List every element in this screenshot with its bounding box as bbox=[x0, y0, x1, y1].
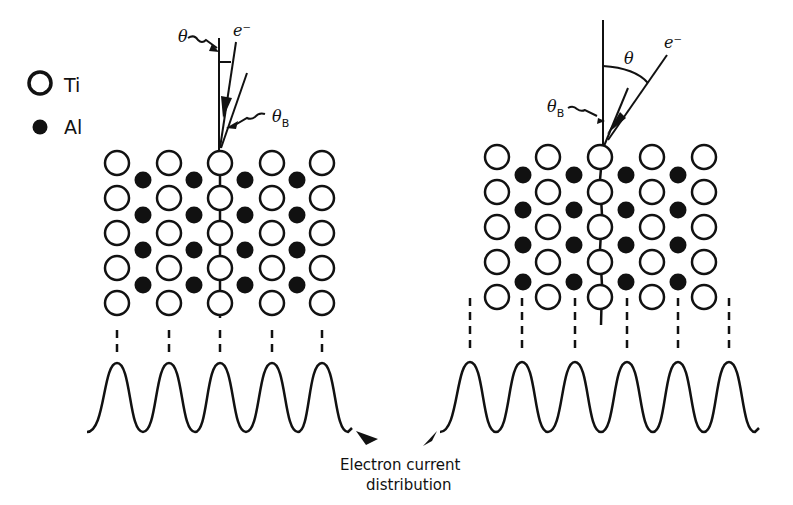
ti-atom-icon bbox=[105, 256, 129, 280]
right-electron-current-curve bbox=[440, 362, 759, 432]
right-caption-arrow-icon bbox=[423, 431, 437, 446]
ti-atom-icon bbox=[310, 186, 334, 210]
al-atom-icon bbox=[186, 207, 203, 224]
left-electron-current-curve bbox=[87, 363, 352, 432]
al-atom-icon bbox=[289, 172, 306, 189]
ti-atom-icon bbox=[485, 145, 509, 169]
left-theta-label: θ bbox=[178, 27, 188, 46]
ti-atom-icon bbox=[588, 285, 612, 309]
ti-atom-icon bbox=[640, 250, 664, 274]
ti-atom-icon bbox=[260, 151, 284, 175]
ti-atom-icon bbox=[208, 291, 232, 315]
left-lattice bbox=[105, 151, 334, 315]
ti-atom-icon bbox=[588, 215, 612, 239]
left-electron-label: e⁻ bbox=[233, 21, 251, 40]
ti-atom-icon bbox=[260, 291, 284, 315]
al-atom-icon bbox=[237, 277, 254, 294]
ti-atom-icon bbox=[208, 186, 232, 210]
al-atom-icon bbox=[566, 274, 583, 291]
ti-atom-icon bbox=[485, 250, 509, 274]
ti-atom-icon bbox=[157, 221, 181, 245]
ti-atom-icon bbox=[588, 250, 612, 274]
right-lattice bbox=[485, 145, 716, 309]
ti-atom-icon bbox=[640, 180, 664, 204]
ti-atom-icon bbox=[105, 291, 129, 315]
ti-atom-icon bbox=[105, 151, 129, 175]
legend-label-ti: Ti bbox=[63, 74, 80, 96]
al-atom-icon bbox=[186, 172, 203, 189]
caption-line-2: distribution bbox=[366, 476, 451, 494]
al-atom-icon bbox=[186, 242, 203, 259]
al-atom-icon bbox=[618, 237, 635, 254]
ti-atom-icon bbox=[260, 186, 284, 210]
ti-atom-icon bbox=[157, 256, 181, 280]
al-atom-icon bbox=[289, 242, 306, 259]
al-atom-icon bbox=[135, 242, 152, 259]
al-atom-icon bbox=[566, 167, 583, 184]
ti-atom-icon bbox=[485, 285, 509, 309]
ti-atom-icon bbox=[640, 285, 664, 309]
al-atom-icon bbox=[237, 207, 254, 224]
legend-label-al: Al bbox=[64, 116, 82, 138]
al-atom-icon bbox=[670, 237, 687, 254]
ti-atom-icon bbox=[588, 180, 612, 204]
legend: Ti Al bbox=[29, 72, 82, 138]
left-caption-arrow-icon bbox=[356, 431, 378, 445]
ti-atom-icon bbox=[208, 256, 232, 280]
al-atom-icon bbox=[618, 274, 635, 291]
ti-atom-icon bbox=[260, 256, 284, 280]
ti-legend-icon bbox=[29, 72, 51, 94]
al-atom-icon bbox=[618, 167, 635, 184]
al-atom-icon bbox=[135, 207, 152, 224]
al-atom-icon bbox=[135, 172, 152, 189]
al-atom-icon bbox=[670, 167, 687, 184]
ti-atom-icon bbox=[485, 215, 509, 239]
right-theta-label: θ bbox=[624, 49, 634, 68]
right-electron-label: e⁻ bbox=[664, 33, 682, 52]
ti-atom-icon bbox=[157, 151, 181, 175]
ti-atom-icon bbox=[157, 291, 181, 315]
diagram-canvas: Ti Al θ e⁻ θB θ e⁻ θB Electron curr bbox=[0, 0, 793, 505]
ti-atom-icon bbox=[692, 180, 716, 204]
ti-atom-icon bbox=[105, 186, 129, 210]
ti-atom-icon bbox=[157, 186, 181, 210]
ti-atom-icon bbox=[310, 221, 334, 245]
ti-atom-icon bbox=[692, 215, 716, 239]
ti-atom-icon bbox=[536, 180, 560, 204]
al-atom-icon bbox=[515, 202, 532, 219]
al-atom-icon bbox=[515, 274, 532, 291]
ti-atom-icon bbox=[640, 145, 664, 169]
al-atom-icon bbox=[289, 277, 306, 294]
right-beam bbox=[568, 20, 667, 148]
caption-line-1: Electron current bbox=[340, 456, 461, 474]
al-atom-icon bbox=[515, 237, 532, 254]
ti-atom-icon bbox=[208, 151, 232, 175]
al-atom-icon bbox=[237, 172, 254, 189]
al-legend-icon bbox=[33, 120, 48, 135]
al-atom-icon bbox=[670, 202, 687, 219]
ti-atom-icon bbox=[310, 151, 334, 175]
al-atom-icon bbox=[515, 167, 532, 184]
ti-atom-icon bbox=[536, 145, 560, 169]
ti-atom-icon bbox=[692, 250, 716, 274]
ti-atom-icon bbox=[208, 221, 232, 245]
al-atom-icon bbox=[566, 237, 583, 254]
ti-atom-icon bbox=[536, 215, 560, 239]
ti-atom-icon bbox=[640, 215, 664, 239]
left-theta-b-label: θB bbox=[272, 107, 289, 130]
ti-atom-icon bbox=[105, 221, 129, 245]
al-atom-icon bbox=[670, 274, 687, 291]
ti-atom-icon bbox=[588, 145, 612, 169]
left-beam bbox=[188, 36, 265, 150]
ti-atom-icon bbox=[692, 145, 716, 169]
ti-atom-icon bbox=[485, 180, 509, 204]
ti-atom-icon bbox=[536, 285, 560, 309]
al-atom-icon bbox=[237, 242, 254, 259]
al-atom-icon bbox=[289, 207, 306, 224]
ti-atom-icon bbox=[310, 256, 334, 280]
ti-atom-icon bbox=[692, 285, 716, 309]
ti-atom-icon bbox=[536, 250, 560, 274]
al-atom-icon bbox=[186, 277, 203, 294]
left-dashed-guides bbox=[117, 330, 322, 356]
al-atom-icon bbox=[135, 277, 152, 294]
